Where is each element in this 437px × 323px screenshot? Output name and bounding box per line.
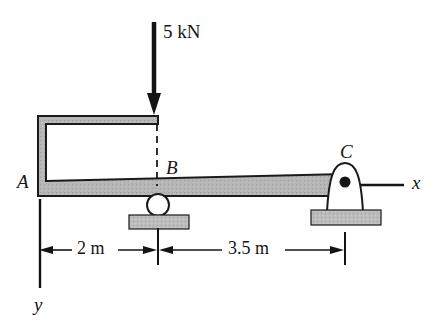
dimension-label-35m: 3.5 m	[228, 239, 269, 257]
axis-label-x: x	[412, 173, 420, 192]
beam-free-body-diagram: 5 kN A B C x y 2 m 3.5 m	[0, 0, 437, 323]
dimension-2m-arrow-right	[143, 246, 157, 254]
ground-plate-icon-c	[311, 210, 381, 225]
dimension-35m-arrow-right	[330, 246, 344, 254]
load-label: 5 kN	[163, 22, 200, 41]
axis-label-y: y	[34, 295, 42, 314]
point-label-a: A	[17, 172, 29, 191]
down-arrow-icon	[147, 22, 161, 115]
beam-cross-section-outline	[38, 116, 345, 196]
load-arrow-head	[147, 93, 161, 115]
ground-plate-icon-b	[129, 215, 189, 229]
dimension-35m-arrow-left	[159, 246, 173, 254]
dimension-label-2m: 2 m	[77, 239, 105, 257]
point-label-b: B	[166, 158, 178, 177]
diagram-canvas	[0, 0, 437, 323]
roller-circle	[147, 194, 169, 216]
beam-member	[38, 116, 345, 196]
point-label-c: C	[340, 142, 353, 161]
pin-dot-icon	[340, 177, 351, 188]
roller-support-icon	[129, 194, 189, 229]
